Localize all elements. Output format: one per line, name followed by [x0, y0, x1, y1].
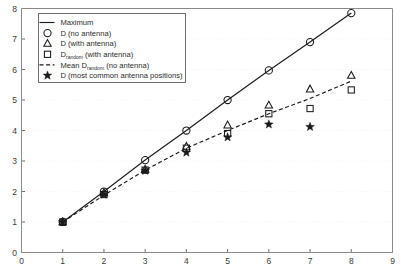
y-tick-label: 8 [12, 4, 17, 14]
x-tick-label: 4 [184, 256, 189, 266]
chart-legend: MaximumD (no antenna)D (with antenna)Dra… [39, 14, 186, 83]
y-tick-label: 0 [12, 248, 17, 258]
x-tick-label: 3 [143, 256, 148, 266]
legend-item-label: Maximum [61, 18, 94, 27]
y-tick-label: 4 [12, 126, 17, 136]
y-tick-label: 6 [12, 65, 17, 75]
x-tick-label: 5 [225, 256, 230, 266]
x-tick-label: 9 [390, 256, 395, 266]
legend-subscript: random [66, 54, 83, 60]
x-tick-label: 1 [60, 256, 65, 266]
scatter-plot: 012345678 0123456789 MaximumD (no antenn… [0, 0, 401, 270]
legend-item-label: D (most common antenna positions) [61, 71, 183, 80]
x-tick-label: 7 [308, 256, 313, 266]
x-tick-label: 2 [102, 256, 107, 266]
y-tick-label: 3 [12, 156, 17, 166]
y-tick-label: 2 [12, 187, 17, 197]
y-tick-label: 1 [12, 217, 17, 227]
x-tick-label: 6 [266, 256, 271, 266]
y-tick-label: 5 [12, 95, 17, 105]
y-tick-label: 7 [12, 34, 17, 44]
legend-subscript: random [87, 65, 104, 71]
legend-item-label: D (with antenna) [61, 39, 117, 48]
legend-item: D (most common antenna positions) [43, 71, 183, 80]
legend-item-label: D (no antenna) [61, 29, 112, 38]
x-tick-label: 8 [349, 256, 354, 266]
chart-figure: 012345678 0123456789 MaximumD (no antenn… [0, 0, 401, 270]
x-tick-label: 0 [19, 256, 24, 266]
legend-item-label: Mean Drandom (no antenna) [61, 61, 150, 71]
